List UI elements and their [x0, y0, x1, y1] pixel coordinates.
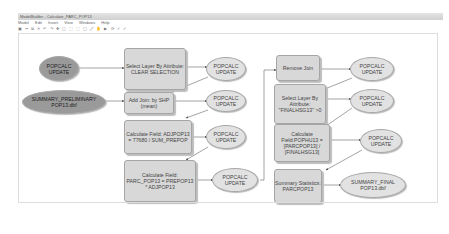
tool-add-join[interactable]: Add Join: by SHP (mean) — [124, 92, 174, 114]
output-popcalc-6[interactable]: POPCALC UPDATE — [350, 89, 394, 113]
output-popcalc-5[interactable]: POPCALC UPDATE — [350, 57, 394, 81]
tool-calc-pophu[interactable]: Calculate Field:POPHU13 = [PARCPOP13] / … — [274, 124, 330, 162]
tool-select-finalhsg[interactable]: Select Layer By Attribute: "FINALHSG13" … — [274, 84, 326, 124]
output-popcalc-3[interactable]: POPCALC UPDATE — [206, 125, 246, 149]
input-popcalc-update[interactable]: POPCALC UPDATE — [39, 56, 79, 81]
tool-calc-adjpop[interactable]: Calculate Field: ADJPOP13 = 77680 / SUM_… — [124, 120, 192, 154]
output-summary-final[interactable]: SUMMARY_FINAL POP13.dbf — [340, 172, 406, 198]
output-popcalc-2[interactable]: POPCALC UPDATE — [206, 90, 246, 112]
connector-lines — [0, 0, 449, 234]
output-popcalc-4[interactable]: POPCALC UPDATE — [212, 168, 258, 192]
tool-calc-parc-pop[interactable]: Calculate Field: PARC_POP13 = PREPOP13 *… — [124, 160, 196, 202]
input-summary-preliminary[interactable]: SUMMARY_PRELIMINARY POP13.dbf — [22, 90, 106, 114]
tool-summary-statistics[interactable]: Summary Statistics: PARCPOP13 — [274, 169, 322, 203]
tool-remove-join[interactable]: Remove Join — [276, 55, 320, 81]
horizontal-scrollbar[interactable] — [18, 202, 438, 206]
output-popcalc-7[interactable]: POPCALC UPDATE — [360, 129, 402, 153]
tool-select-clear-selection[interactable]: Select Layer By Attribute: CLEAR SELECTI… — [124, 48, 186, 90]
output-popcalc-1[interactable]: POPCALC UPDATE — [206, 57, 246, 81]
